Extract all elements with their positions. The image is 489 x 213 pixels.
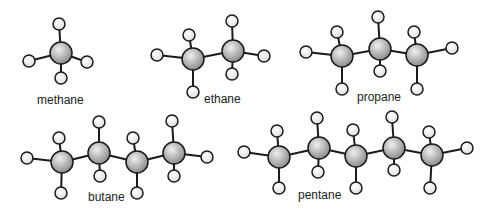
hydrogen-atom [131,187,143,199]
hydrogen-atom [386,111,398,123]
hydrogen-atom [258,50,270,62]
hydrogen-atom [388,164,400,176]
hydrogen-atom [312,166,324,178]
hydrogen-atom [127,132,139,144]
hydrogen-atom [81,56,93,68]
hydrogen-atom [300,46,312,58]
molecule-ethane [151,15,270,98]
hydrogen-atom [374,65,386,77]
molecule-pentane [238,111,473,194]
molecule-butane [21,115,213,199]
carbon-atom [345,145,367,167]
hydrogen-atom [336,83,348,95]
hydrogen-atom [93,116,105,128]
carbon-atom [383,137,405,159]
hydrogen-atom [411,83,423,95]
hydrogen-atom [408,26,420,38]
alkane-diagram: methane ethane propane butane pentane [0,0,489,213]
hydrogen-atom [331,26,343,38]
label-ethane: ethane [204,92,241,106]
hydrogen-atom [424,182,436,194]
hydrogen-atom [372,11,384,23]
bonds [157,21,264,92]
carbon-atom [268,146,290,168]
molecule-propane [300,11,458,95]
molecule-methane [23,18,93,84]
carbon-atom [331,45,353,67]
carbon-atom [50,42,72,64]
carbon-atom [126,151,148,173]
hydrogen-atom [21,152,33,164]
hydrogen-atom [166,115,178,127]
hydrogen-atom [273,182,285,194]
carbon-atom [308,137,330,159]
carbon-atom [406,44,428,66]
hydrogen-atom [446,42,458,54]
carbon-atom [51,151,73,173]
hydrogen-atom [226,15,238,27]
label-butane: butane [88,190,125,204]
hydrogen-atom [23,55,35,67]
hydrogen-atom [347,124,359,136]
hydrogen-atom [423,126,435,138]
hydrogen-atom [238,146,250,158]
hydrogen-atom [271,125,283,137]
hydrogen-atom [53,18,65,30]
carbon-atom [182,48,204,70]
label-pentane: pentane [298,188,341,202]
hydrogen-atom [53,132,65,144]
carbon-atom [421,144,443,166]
carbon-atom [88,142,110,164]
label-methane: methane [37,93,84,107]
hydrogen-atom [187,86,199,98]
carbon-atom [369,38,391,60]
hydrogen-atom [168,170,180,182]
hydrogen-atom [94,170,106,182]
hydrogen-atom [55,187,67,199]
hydrogen-atom [226,68,238,80]
hydrogen-atom [461,142,473,154]
carbon-atom [222,40,244,62]
carbon-atom [163,142,185,164]
hydrogen-atom [311,112,323,124]
hydrogen-atom [151,49,163,61]
hydrogen-atom [183,29,195,41]
hydrogen-atom [201,151,213,163]
label-propane: propane [357,90,401,104]
hydrogen-atom [350,182,362,194]
hydrogen-atom [55,72,67,84]
